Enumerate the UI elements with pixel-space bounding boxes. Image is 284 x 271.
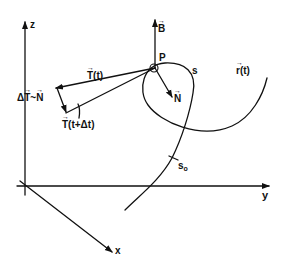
- point-p-label: P: [159, 53, 166, 63]
- delta-N-symbol: N: [36, 93, 43, 103]
- frenet-diagram: [0, 0, 284, 271]
- normal-label: N: [174, 94, 181, 104]
- y-axis-label: y: [262, 190, 268, 201]
- x-axis: [20, 181, 112, 252]
- curve-arg: (t): [240, 65, 250, 76]
- delta-tangent-vector: [57, 88, 66, 112]
- tangent-next-symbol: T: [62, 120, 68, 130]
- binormal-symbol: B: [158, 24, 165, 34]
- binormal-label: B: [158, 24, 165, 34]
- tangent-symbol: T: [87, 71, 93, 81]
- delta-tangent-label: ΔT~N: [17, 93, 43, 103]
- label-pointer: [78, 104, 80, 118]
- tangent-next-label: T(t+Δt): [62, 120, 94, 130]
- tangent-next-arg: (t+Δt): [68, 119, 94, 130]
- normal-symbol: N: [174, 94, 181, 104]
- x-axis-label: x: [115, 246, 121, 256]
- s0-subscript: o: [184, 165, 188, 172]
- s0-tick: [169, 156, 178, 160]
- tangent-arg: (t): [93, 70, 103, 81]
- space-curve: [125, 63, 267, 210]
- z-axis-label: z: [30, 20, 35, 30]
- tangent-vector: [56, 68, 155, 88]
- delta-prefix: Δ: [17, 92, 24, 103]
- curve-label: r(t): [236, 66, 250, 76]
- s0-label: so: [178, 161, 188, 172]
- tangent-label: T(t): [87, 71, 103, 81]
- normal-vector: [155, 68, 172, 97]
- curve-symbol: r: [236, 66, 240, 76]
- delta-T-symbol: T: [24, 93, 30, 103]
- arc-length-label: s: [192, 66, 198, 76]
